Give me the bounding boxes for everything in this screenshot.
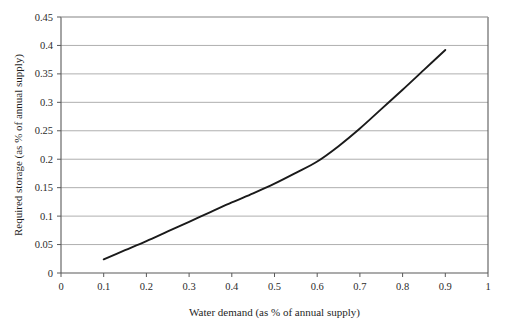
- y-tick-label: 0.1: [40, 211, 53, 222]
- y-tick-label: 0.05: [35, 239, 53, 250]
- y-tick-label: 0.25: [35, 125, 53, 136]
- chart-figure: 00.050.10.150.20.250.30.350.40.45 00.10.…: [0, 0, 509, 326]
- y-tick-label: 0.35: [35, 68, 53, 79]
- chart-canvas: 00.050.10.150.20.250.30.350.40.45 00.10.…: [0, 0, 509, 326]
- x-tick-label: 0.6: [311, 281, 324, 292]
- y-axis-title: Required storage (as % of annual supply): [12, 54, 25, 236]
- y-tick-label: 0.2: [40, 154, 53, 165]
- x-tick-label: 0.1: [97, 281, 110, 292]
- y-tick-label: 0.45: [35, 12, 53, 23]
- y-tick-label: 0.3: [40, 97, 53, 108]
- x-tick-label: 1: [485, 281, 490, 292]
- x-tick-label: 0: [58, 281, 63, 292]
- x-tick-label: 0.2: [140, 281, 153, 292]
- x-tick-label: 0.3: [183, 281, 196, 292]
- x-tick-label: 0.8: [396, 281, 409, 292]
- x-tick-label: 0.5: [268, 281, 281, 292]
- x-axis-title: Water demand (as % of annual supply): [189, 306, 360, 319]
- y-tick-label: 0.4: [40, 40, 54, 51]
- x-tick-label: 0.4: [225, 281, 239, 292]
- chart-background: [0, 0, 509, 326]
- x-tick-label: 0.7: [353, 281, 366, 292]
- x-tick-label: 0.9: [439, 281, 452, 292]
- y-tick-label: 0: [48, 268, 53, 279]
- y-tick-label: 0.15: [35, 182, 53, 193]
